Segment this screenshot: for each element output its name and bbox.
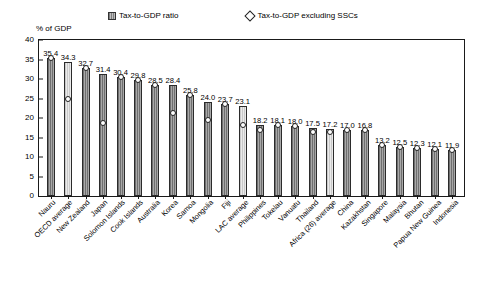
tax-to-gdp-chart: Tax-to-GDP ratio Tax-to-GDP excluding SS… [0,0,494,281]
bar[interactable]: 17.0 [343,130,351,196]
legend-item-tax-to-gdp-excluding-sscs: Tax-to-GDP excluding SSCs [246,11,357,20]
y-axis-tick-label: 15 [25,134,39,142]
bar[interactable]: 17.5 [309,128,317,196]
bar[interactable]: 34.3 [64,62,72,196]
bar-slot: 23.1 [234,40,251,196]
excluding-sscs-marker[interactable] [432,146,438,152]
bar[interactable]: 17.2 [326,129,334,196]
bar-value-label: 31.4 [96,66,111,74]
y-axis-tick-label: 35 [25,56,39,64]
bar-slot: 13.2 [374,40,391,196]
bar[interactable]: 23.7 [221,104,229,196]
chart-legend: Tax-to-GDP ratio Tax-to-GDP excluding SS… [108,9,408,22]
bar-slot: 30.4 [112,40,129,196]
legend-label-series-2: Tax-to-GDP excluding SSCs [257,11,357,20]
excluding-sscs-marker[interactable] [135,77,141,83]
legend-item-tax-to-gdp-ratio: Tax-to-GDP ratio [108,11,178,20]
bar[interactable]: 16.8 [361,130,369,196]
bar-slot: 34.3 [59,40,76,196]
bar-slot: 11.9 [443,40,460,196]
excluding-sscs-marker[interactable] [48,55,54,61]
bar[interactable]: 23.1 [239,106,247,196]
excluding-sscs-marker[interactable] [449,147,455,153]
bar-slot: 32.7 [77,40,94,196]
bar-slot: 28.5 [147,40,164,196]
bar[interactable]: 35.4 [47,58,55,196]
bar-value-label: 18.2 [253,117,268,125]
y-axis-title: % of GDP [36,24,72,33]
excluding-sscs-marker[interactable] [205,117,211,123]
category-slot: Indonesia [445,198,463,280]
bar-slot: 24.0 [199,40,216,196]
y-axis-tick-label: 40 [25,36,39,44]
bar-slot: 28.4 [164,40,181,196]
excluding-sscs-marker[interactable] [327,129,333,135]
bar-slot: 18.1 [269,40,286,196]
plot-area: 4035302520151050 35.434.332.731.430.429.… [38,39,465,197]
bar-slot: 35.4 [42,40,59,196]
bar-slot: 17.0 [339,40,356,196]
bar-slot: 29.8 [129,40,146,196]
y-axis-tick-label: 25 [25,95,39,103]
bar[interactable]: 13.2 [378,145,386,196]
bar[interactable]: 29.8 [134,80,142,196]
bar-slot: 18.0 [286,40,303,196]
excluding-sscs-marker[interactable] [310,129,316,135]
x-axis-label: Fiji [220,199,232,211]
y-axis-tick-label: 5 [30,173,39,181]
category-slot: Mongolia [199,198,217,280]
bar-slot: 17.5 [304,40,321,196]
excluding-sscs-marker[interactable] [222,101,228,107]
bar-slot: 31.4 [94,40,111,196]
y-axis-tick-label: 20 [25,114,39,122]
y-axis-tick-label: 30 [25,75,39,83]
bar-slot: 12.5 [391,40,408,196]
bar[interactable]: 18.0 [291,126,299,196]
bar-slot: 25.8 [182,40,199,196]
bar-value-label: 17.5 [305,120,320,128]
bar-slot: 12.1 [426,40,443,196]
bar[interactable]: 25.8 [186,95,194,196]
bar-value-label: 28.4 [166,77,181,85]
bar-series-group: 35.434.332.731.430.429.828.528.425.824.0… [39,40,464,196]
bar[interactable]: 31.4 [99,74,107,196]
excluding-sscs-marker[interactable] [379,142,385,148]
bar[interactable]: 12.3 [413,148,421,196]
x-axis-category-labels: NauruOECD averageNew ZealandJapanSolomon… [38,198,465,280]
hatched-square-icon [108,12,116,20]
bar[interactable]: 28.5 [151,85,159,196]
bar-slot: 12.3 [409,40,426,196]
bar[interactable]: 12.5 [396,147,404,196]
bar[interactable]: 32.7 [82,68,90,196]
bar-value-label: 24.0 [200,94,215,102]
bar-slot: 23.7 [217,40,234,196]
y-axis-tick-label: 10 [25,153,39,161]
bar[interactable]: 18.2 [256,125,264,196]
bar[interactable]: 28.4 [169,85,177,196]
bar[interactable]: 12.1 [431,149,439,196]
bar-slot: 16.8 [356,40,373,196]
bar-value-label: 34.3 [61,54,76,62]
bar-slot: 18.2 [251,40,268,196]
bar-value-label: 17.2 [323,121,338,129]
excluding-sscs-marker[interactable] [292,123,298,129]
bar[interactable]: 30.4 [117,77,125,196]
excluding-sscs-marker[interactable] [100,120,106,126]
diamond-outline-icon [245,10,256,21]
bar[interactable]: 11.9 [448,150,456,196]
legend-label-series-1: Tax-to-GDP ratio [119,11,178,20]
bar-slot: 17.2 [321,40,338,196]
bar-value-label: 23.1 [235,98,250,106]
bar[interactable]: 18.1 [274,125,282,196]
